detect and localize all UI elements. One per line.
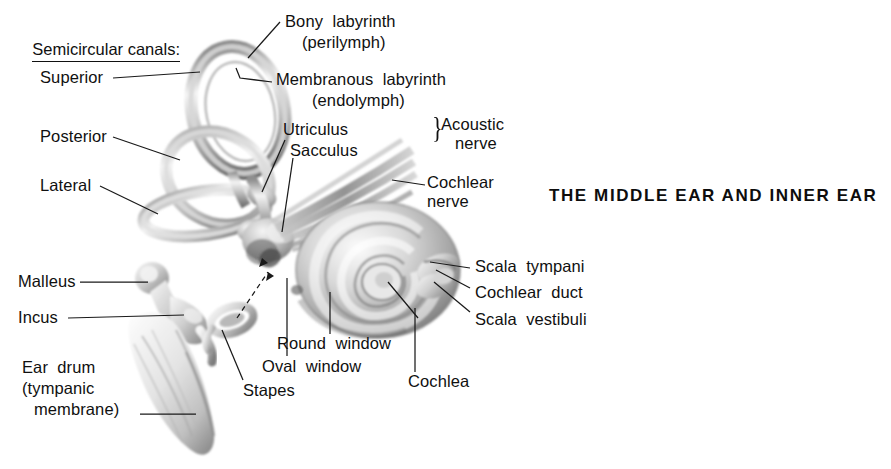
label-acoustic-nerve-line1: Acoustic — [441, 115, 504, 134]
label-ear-drum-line1: Ear drum — [22, 358, 95, 377]
label-bony-labyrinth: Bony labyrinth — [285, 12, 396, 31]
label-stapes: Stapes — [243, 381, 295, 400]
label-ear-drum-line2: (tympanic — [22, 379, 94, 398]
label-cochlear-nerve-line2: nerve — [427, 192, 469, 211]
label-perilymph: (perilymph) — [302, 33, 386, 52]
label-posterior: Posterior — [40, 127, 107, 146]
label-cochlear-duct: Cochlear duct — [475, 283, 583, 302]
label-incus: Incus — [18, 308, 58, 327]
label-acoustic-nerve-line2: nerve — [455, 134, 497, 153]
ear-anatomy-figure: Semicircular canals: Superior Posterior … — [0, 0, 891, 469]
label-endolymph: (endolymph) — [312, 91, 405, 110]
label-cochlear-nerve-line1: Cochlear — [427, 173, 494, 192]
leader-lateral — [100, 186, 158, 214]
label-oval-window: Oval window — [262, 357, 361, 376]
label-ear-drum-line3: membrane) — [34, 400, 119, 419]
leader-stapes — [222, 330, 243, 380]
label-superior: Superior — [40, 68, 103, 87]
label-scala-tympani: Scala tympani — [475, 257, 585, 276]
stapes — [206, 301, 257, 350]
label-utriculus: Utriculus — [283, 120, 348, 139]
label-cochlea: Cochlea — [408, 372, 469, 391]
label-lateral: Lateral — [40, 176, 91, 195]
figure-title: THE MIDDLE EAR AND INNER EAR — [549, 186, 877, 206]
label-membranous-labyrinth: Membranous labyrinth — [276, 70, 446, 89]
label-sacculus: Sacculus — [290, 141, 358, 160]
arrow-oval-window — [266, 272, 274, 281]
label-round-window: Round window — [277, 334, 391, 353]
label-scala-vestibuli: Scala vestibuli — [475, 310, 587, 329]
leader-bony-labyrinth — [248, 22, 280, 58]
label-malleus: Malleus — [18, 272, 76, 291]
